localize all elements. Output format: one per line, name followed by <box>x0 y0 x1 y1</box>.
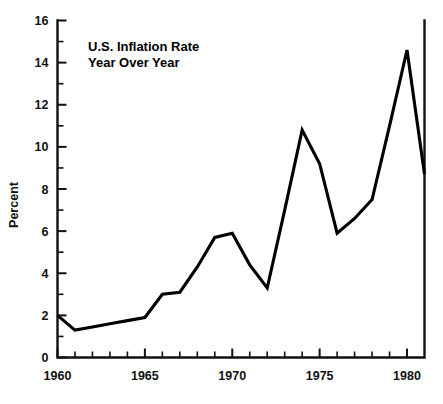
x-tick-label: 1970 <box>218 369 246 383</box>
y-tick-label: 16 <box>35 14 49 28</box>
y-tick-label: 12 <box>35 98 49 112</box>
chart-title-line-2: Year Over Year <box>88 55 180 70</box>
chart-title-line-1: U.S. Inflation Rate <box>88 39 199 54</box>
inflation-rate-line <box>58 50 425 330</box>
inflation-rate-chart: 0246810121416 19601965197019751980 Perce… <box>0 0 443 404</box>
y-tick-label: 8 <box>42 183 49 197</box>
x-tick-label: 1960 <box>44 369 72 383</box>
y-tick-label: 4 <box>42 267 49 281</box>
y-tick-label: 2 <box>42 309 49 323</box>
x-tick-label: 1965 <box>131 369 159 383</box>
x-axis-ticks <box>58 349 408 358</box>
y-tick-label: 0 <box>42 351 49 365</box>
chart-canvas: 0246810121416 19601965197019751980 Perce… <box>0 0 443 404</box>
x-tick-label: 1980 <box>393 369 421 383</box>
axis-frame <box>58 21 425 358</box>
y-tick-label: 10 <box>35 140 49 154</box>
y-tick-label: 14 <box>35 56 49 70</box>
y-axis-ticks <box>58 21 67 358</box>
x-tick-label: 1975 <box>306 369 334 383</box>
x-axis-tick-labels: 19601965197019751980 <box>44 369 421 383</box>
y-axis-tick-labels: 0246810121416 <box>35 14 49 365</box>
y-axis-title: Percent <box>7 181 21 228</box>
y-tick-label: 6 <box>42 225 49 239</box>
